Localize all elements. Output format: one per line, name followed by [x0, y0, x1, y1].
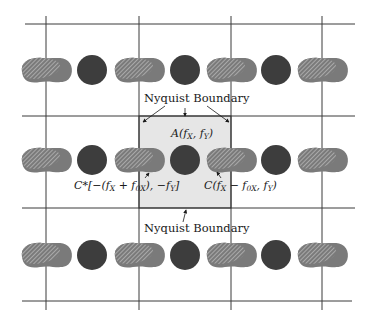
- aliased-blob: [207, 58, 257, 83]
- spectrum-circle: [170, 240, 200, 270]
- aliased-blob: [115, 58, 165, 83]
- spectrum-circle: [170, 55, 200, 85]
- aliased-blob: [298, 58, 348, 83]
- aliased-blob: [207, 148, 257, 173]
- spectrum-circle: [170, 145, 200, 175]
- aliased-blob: [298, 243, 348, 268]
- aliased-blob: [115, 243, 165, 268]
- spectrum-row-1: [22, 55, 348, 85]
- spectrum-circle: [261, 55, 291, 85]
- A-spectrum-label: A(fX, fY): [171, 128, 213, 141]
- aliased-blob: [207, 243, 257, 268]
- spectrum-circle: [261, 240, 291, 270]
- aliased-blob: [22, 148, 72, 173]
- spectrum-row-2: [22, 145, 348, 175]
- spectrum-row-3: [22, 240, 348, 270]
- C-label: C(fX − f0X, fY): [204, 180, 277, 193]
- spectrum-circle: [261, 145, 291, 175]
- spectrum-circle: [77, 145, 107, 175]
- nyquist-boundary-bottom-label: Nyquist Boundary: [144, 223, 250, 235]
- aliased-blob: [298, 148, 348, 173]
- spectrum-circle: [77, 55, 107, 85]
- C-star-label: C*[−(fX + f0X), −fY]: [74, 180, 179, 193]
- aliasing-diagram: [0, 0, 372, 326]
- aliased-blob: [22, 243, 72, 268]
- nyquist-boundary-top-label: Nyquist Boundary: [144, 93, 250, 105]
- aliased-blob: [115, 148, 165, 173]
- spectrum-circle: [77, 240, 107, 270]
- aliased-blob: [22, 58, 72, 83]
